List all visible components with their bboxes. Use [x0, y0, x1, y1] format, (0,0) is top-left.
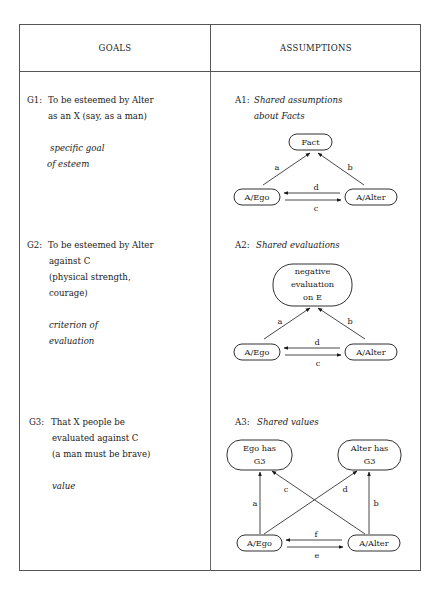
node-neg-eval-line3: on E: [303, 292, 322, 302]
edge-d-label: d: [314, 337, 319, 347]
edge-b-label: b: [347, 162, 352, 172]
edge-b-label: b: [347, 316, 352, 326]
edge-b: [318, 153, 364, 185]
diagram-a3: Ego has G3 Alter has G3 A/Ego A/Alter a …: [227, 440, 401, 560]
edge-d-label: d: [342, 484, 347, 494]
edge-a: [264, 308, 310, 339]
node-ego-label: A/Ego: [244, 192, 270, 202]
diagram-a1: Fact A/Ego A/Alter a b d c: [234, 134, 397, 213]
node-ego-label: A/Ego: [244, 347, 270, 357]
edge-d: [264, 471, 357, 534]
edge-c-label: c: [284, 484, 289, 494]
edge-a-label: a: [275, 162, 280, 172]
edge-a: [263, 153, 310, 185]
edge-a-label: a: [278, 316, 283, 326]
edge-c-label: c: [316, 358, 321, 368]
edge-b: [318, 308, 365, 339]
node-ego-has-line1: Ego has: [243, 443, 276, 453]
edge-c-label: c: [314, 203, 319, 213]
node-ego-has-line2: G3: [254, 456, 266, 466]
node-alter-label: A/Alter: [358, 538, 388, 548]
edge-c: [272, 471, 365, 534]
node-neg-eval-line2: evaluation: [291, 279, 335, 289]
node-alter-has-line1: Alter has: [350, 443, 389, 453]
diagram-a2: negative evaluation on E A/Ego A/Alter a…: [234, 264, 397, 368]
node-alter-label: A/Alter: [355, 347, 385, 357]
edge-b-label: b: [373, 498, 378, 508]
edge-f-label: f: [314, 529, 318, 539]
edge-e-label: e: [315, 550, 320, 560]
diagrams-canvas: Fact A/Ego A/Alter a b d c negative eval…: [0, 0, 436, 595]
edge-d-label: d: [313, 182, 318, 192]
node-alter-label: A/Alter: [355, 192, 385, 202]
node-fact-label: Fact: [302, 137, 321, 147]
edge-a-label: a: [253, 498, 258, 508]
node-neg-eval-line1: negative: [295, 266, 331, 276]
node-alter-has-line2: G3: [364, 456, 376, 466]
node-ego-label: A/Ego: [246, 538, 272, 548]
